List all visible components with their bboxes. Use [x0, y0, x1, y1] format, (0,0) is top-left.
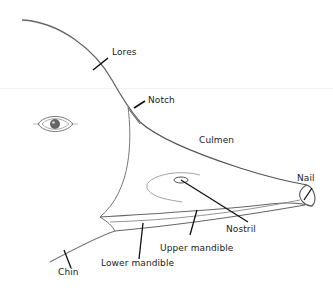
- label-chin: Chin: [58, 268, 79, 277]
- leader-notch: [134, 101, 145, 108]
- label-nail: Nail: [297, 174, 315, 183]
- bill-anatomy-diagram: Lores Notch Culmen Nail Nostril Upper ma…: [0, 0, 333, 304]
- label-lower-mandible: Lower mandible: [101, 259, 174, 268]
- leader-lores: [93, 58, 108, 70]
- jaw-curve: [100, 217, 115, 231]
- lower-mandible-edge: [115, 205, 305, 231]
- label-notch: Notch: [148, 96, 175, 105]
- notch-feather-edge: [100, 106, 130, 217]
- eye-icon: [33, 117, 78, 132]
- forehead-outline: [22, 20, 140, 122]
- culmen-outline: [140, 122, 307, 185]
- label-upper-mandible: Upper mandible: [160, 244, 233, 253]
- leader-nail: [304, 188, 312, 200]
- label-lores: Lores: [112, 48, 137, 57]
- leader-nostril: [181, 180, 248, 222]
- label-culmen: Culmen: [199, 136, 234, 145]
- label-nostril: Nostril: [226, 225, 256, 234]
